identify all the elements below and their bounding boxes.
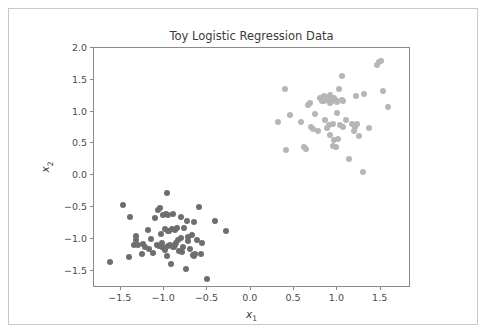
scatter-point — [327, 100, 333, 106]
scatter-point — [107, 259, 113, 265]
y-tick-mark — [90, 79, 93, 80]
x-tick-mark — [380, 287, 381, 290]
y-tick-label: 0.0 — [72, 169, 87, 180]
scatter-point — [179, 249, 185, 255]
y-tick-label: −1.0 — [64, 232, 87, 243]
scatter-point — [126, 254, 132, 260]
y-tick-mark — [90, 111, 93, 112]
scatter-point — [340, 124, 346, 130]
scatter-point — [157, 205, 163, 211]
y-tick-mark — [90, 142, 93, 143]
scatter-point — [168, 261, 174, 267]
scatter-point — [339, 73, 345, 79]
scatter-point — [361, 91, 367, 97]
scatter-point — [282, 86, 288, 92]
scatter-point — [164, 190, 170, 196]
y-tick-label: 0.5 — [72, 137, 87, 148]
scatter-point — [324, 125, 330, 131]
scatter-point — [360, 169, 366, 175]
scatter-point — [315, 128, 321, 134]
scatter-point — [120, 202, 126, 208]
scatter-point — [183, 266, 189, 272]
scatter-point — [343, 117, 349, 123]
scatter-point — [223, 228, 229, 234]
y-axis-label: x2 — [39, 161, 54, 172]
y-tick-label: 1.0 — [72, 105, 87, 116]
scatter-point — [127, 214, 133, 220]
scatter-point — [178, 214, 184, 220]
x-tick-label: 1.5 — [372, 292, 387, 303]
y-tick-mark — [90, 238, 93, 239]
scatter-point — [199, 240, 205, 246]
scatter-point — [152, 215, 158, 221]
x-tick-label: 1.0 — [329, 292, 344, 303]
y-tick-label: 2.0 — [72, 42, 87, 53]
scatter-point — [198, 251, 204, 257]
y-tick-mark — [90, 47, 93, 48]
scatter-point — [174, 225, 180, 231]
scatter-point — [283, 147, 289, 153]
scatter-point — [378, 58, 384, 64]
scatter-point — [354, 121, 360, 127]
scatter-point — [158, 231, 164, 237]
scatter-point — [139, 251, 145, 257]
scatter-point — [353, 93, 359, 99]
x-tick-label: 0.5 — [286, 292, 301, 303]
scatter-point — [150, 250, 156, 256]
scatter-point — [356, 133, 362, 139]
y-tick-label: −0.5 — [64, 201, 87, 212]
scatter-point — [335, 136, 341, 142]
scatter-point — [287, 112, 293, 118]
scatter-point — [336, 86, 342, 92]
x-tick-mark — [293, 287, 294, 290]
scatter-point — [303, 146, 309, 152]
scatter-point — [189, 232, 195, 238]
x-tick-mark — [206, 287, 207, 290]
scatter-point — [346, 156, 352, 162]
y-tick-mark — [90, 270, 93, 271]
scatter-point — [170, 211, 176, 217]
matplotlib-figure: Toy Logistic Regression Data −1.5−1.0−0.… — [0, 0, 490, 334]
scatter-point — [298, 119, 304, 125]
scatter-point — [204, 276, 210, 282]
scatter-point — [333, 144, 339, 150]
y-tick-label: 1.5 — [72, 73, 87, 84]
scatter-point — [340, 98, 346, 104]
scatter-point — [148, 236, 154, 242]
scatter-point — [307, 100, 313, 106]
scatter-point — [330, 121, 336, 127]
screenshot-root: Toy Logistic Regression Data −1.5−1.0−0.… — [0, 0, 490, 334]
scatter-point — [145, 227, 151, 233]
scatter-point — [275, 119, 281, 125]
y-tick-label: −1.5 — [64, 264, 87, 275]
x-tick-label: −1.5 — [108, 292, 131, 303]
scatter-point — [180, 244, 186, 250]
y-tick-mark — [90, 206, 93, 207]
scatter-point — [181, 225, 187, 231]
scatter-point — [184, 218, 190, 224]
scatter-point — [366, 125, 372, 131]
scatter-point — [178, 235, 184, 241]
scatter-point — [385, 104, 391, 110]
plot-axes-area — [93, 47, 410, 287]
scatter-point — [212, 218, 218, 224]
x-tick-mark — [250, 287, 251, 290]
x-tick-mark — [120, 287, 121, 290]
x-tick-mark — [163, 287, 164, 290]
x-tick-mark — [336, 287, 337, 290]
scatter-point — [185, 238, 191, 244]
x-tick-label: −0.5 — [195, 292, 218, 303]
scatter-point — [312, 111, 318, 117]
x-tick-label: −1.0 — [152, 292, 175, 303]
chart-title: Toy Logistic Regression Data — [93, 29, 410, 43]
scatter-point — [380, 88, 386, 94]
x-tick-label: 0.0 — [242, 292, 257, 303]
scatter-point — [196, 204, 202, 210]
x-axis-label: x1 — [93, 308, 410, 323]
scatter-point — [191, 219, 197, 225]
scatter-point — [334, 110, 340, 116]
scatter-point — [164, 253, 170, 259]
y-tick-mark — [90, 174, 93, 175]
